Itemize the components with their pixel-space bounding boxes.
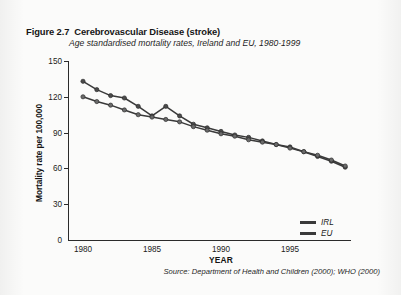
legend-item-irl[interactable]: IRL — [300, 217, 360, 228]
y-tick-150: 150 — [36, 57, 62, 66]
y-axis-line — [68, 61, 69, 241]
x-tick-1990: 1990 — [201, 245, 241, 254]
x-tick-1985: 1985 — [132, 245, 172, 254]
y-tick-mark-90 — [64, 133, 68, 134]
y-tick-mark-120 — [64, 97, 68, 98]
y-axis-title: Mortality rate per 100,000 — [34, 73, 44, 233]
y-tick-0: 0 — [36, 236, 62, 245]
x-axis-title: YEAR — [186, 255, 256, 265]
y-tick-mark-30 — [64, 204, 68, 205]
y-tick-mark-60 — [64, 168, 68, 169]
chart-legend: IRL EU — [300, 217, 360, 239]
chart-plot-area: 150 120 90 60 30 0 1980 1985 1990 1995 M… — [0, 0, 401, 295]
x-tick-1980: 1980 — [63, 245, 103, 254]
legend-item-eu[interactable]: EU — [300, 228, 360, 239]
figure-page: Figure 2.7Cerebrovascular Disease (strok… — [0, 0, 401, 295]
x-tick-1995: 1995 — [270, 245, 310, 254]
series-eu — [81, 95, 347, 168]
x-axis-line — [68, 240, 351, 241]
y-tick-mark-150 — [64, 61, 68, 62]
legend-label-eu: EU — [321, 229, 332, 238]
legend-swatch-eu — [300, 232, 316, 234]
legend-label-irl: IRL — [321, 218, 334, 227]
source-note: Source: Department of Health and Childre… — [40, 267, 380, 276]
legend-swatch-irl — [300, 221, 316, 223]
series-irl — [81, 79, 347, 169]
